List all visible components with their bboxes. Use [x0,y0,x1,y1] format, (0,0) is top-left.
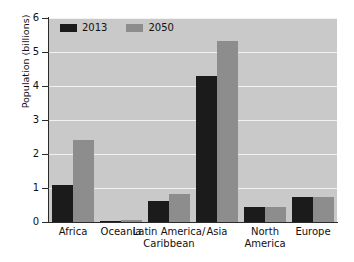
x-axis-line [48,222,338,223]
bar-latin-america-caribbean-2050 [169,194,190,222]
bar-africa-2050 [73,140,94,222]
bar-asia-2050 [217,41,238,222]
gridline [49,18,337,19]
bar-oceania-2013 [100,221,121,222]
legend-item-2013: 2013 [60,23,107,33]
legend-label-2050: 2050 [148,23,173,33]
y-axis-tick [42,188,48,189]
gridline [49,86,337,87]
y-axis-tick-label: 1 [24,183,39,193]
legend-swatch-2050 [126,24,143,32]
bar-africa-2013 [52,185,73,222]
plot-area [49,18,337,222]
y-axis-tick-label: 6 [24,13,39,23]
gridline [49,120,337,121]
y-axis-tick [42,86,48,87]
y-axis-tick [42,154,48,155]
bar-north-america-2050 [265,207,286,222]
bar-europe-2050 [313,197,334,223]
bar-europe-2013 [292,197,313,222]
bar-oceania-2050 [121,220,142,222]
y-axis-tick-label: 2 [24,149,39,159]
population-bar-chart: Population (billions) 0123456 AfricaOcea… [0,0,354,262]
bar-latin-america-caribbean-2013 [148,201,169,222]
y-axis-tick [42,52,48,53]
x-axis-label: Europe [263,226,354,238]
bar-north-america-2013 [244,207,265,222]
legend-item-2050: 2050 [126,23,173,33]
gridline [49,52,337,53]
y-axis-tick [42,120,48,121]
y-axis-tick [42,222,48,223]
y-axis-tick-label: 5 [24,47,39,57]
bar-asia-2013 [196,76,217,222]
y-axis-tick [42,18,48,19]
legend-swatch-2013 [60,24,77,32]
y-axis-tick-label: 4 [24,81,39,91]
legend-label-2013: 2013 [82,23,107,33]
legend: 20132050 [60,23,174,33]
y-axis-tick-label: 3 [24,115,39,125]
